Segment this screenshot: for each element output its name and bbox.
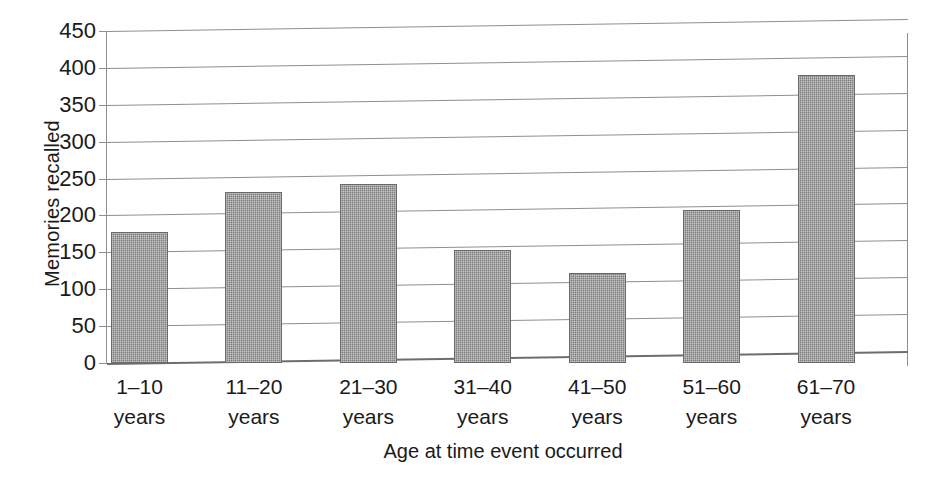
x-tick-label: 51–60years xyxy=(652,372,772,432)
y-tick-mark xyxy=(99,105,107,106)
y-axis-line xyxy=(106,31,107,364)
bar xyxy=(683,210,740,363)
gridline xyxy=(107,130,908,143)
x-tick-label-unit: years xyxy=(80,402,200,432)
bar xyxy=(111,232,168,363)
bar xyxy=(798,75,855,363)
y-tick-label: 250 xyxy=(59,166,96,192)
y-tick-mark xyxy=(99,31,107,32)
bar-chart-figure: Memories recalled 4504003503002502001501… xyxy=(0,0,926,486)
y-tick-label: 300 xyxy=(59,129,96,155)
x-tick-label: 21–30years xyxy=(308,372,428,432)
x-tick-label: 11–20years xyxy=(194,372,314,432)
y-axis-tick: 150 xyxy=(107,252,108,253)
y-tick-mark xyxy=(99,215,107,216)
y-axis-tick: 100 xyxy=(107,289,108,290)
x-tick-label: 41–50years xyxy=(537,372,657,432)
y-axis-tick: 300 xyxy=(107,142,108,143)
x-axis-title: Age at time event occurred xyxy=(0,440,926,463)
y-tick-mark xyxy=(99,68,107,69)
x-tick-label-range: 21–30 xyxy=(308,372,428,402)
x-tick-label-range: 41–50 xyxy=(537,372,657,402)
gridline xyxy=(107,167,908,180)
gridline xyxy=(107,56,908,69)
x-tick-label-range: 51–60 xyxy=(652,372,772,402)
x-tick-label: 1–10years xyxy=(80,372,200,432)
bar xyxy=(225,192,282,363)
y-axis-tick: 450 xyxy=(107,31,108,32)
bar xyxy=(340,184,397,363)
y-tick-mark xyxy=(99,289,107,290)
x-tick-label-unit: years xyxy=(537,402,657,432)
plot-area: 450400350300250200150100500 xyxy=(107,31,908,363)
y-axis-tick: 200 xyxy=(107,215,108,216)
bar xyxy=(569,273,626,363)
y-tick-label: 350 xyxy=(59,92,96,118)
y-axis-tick: 0 xyxy=(107,363,108,364)
y-tick-mark xyxy=(99,326,107,327)
y-tick-label: 400 xyxy=(59,55,96,81)
y-tick-label: 200 xyxy=(59,202,96,228)
y-axis-tick: 350 xyxy=(107,105,108,106)
x-tick-label-range: 31–40 xyxy=(423,372,543,402)
x-tick-label-unit: years xyxy=(766,402,886,432)
x-tick-label-range: 61–70 xyxy=(766,372,886,402)
y-tick-mark xyxy=(99,142,107,143)
x-tick-label-unit: years xyxy=(194,402,314,432)
x-tick-label-unit: years xyxy=(308,402,428,432)
plot-right-border xyxy=(907,33,908,366)
y-tick-label: 450 xyxy=(59,18,96,44)
x-tick-label-range: 11–20 xyxy=(194,372,314,402)
y-axis-tick: 250 xyxy=(107,179,108,180)
x-tick-label: 31–40years xyxy=(423,372,543,432)
gridline xyxy=(107,19,908,32)
x-tick-label-unit: years xyxy=(423,402,543,432)
x-tick-label: 61–70years xyxy=(766,372,886,432)
y-tick-mark xyxy=(99,363,107,364)
bar xyxy=(454,250,511,363)
y-tick-label: 100 xyxy=(59,276,96,302)
gridline xyxy=(107,93,908,106)
y-axis-tick: 50 xyxy=(107,326,108,327)
y-tick-label: 50 xyxy=(72,313,96,339)
y-tick-mark xyxy=(99,179,107,180)
y-tick-mark xyxy=(99,252,107,253)
y-tick-label: 150 xyxy=(59,239,96,265)
y-axis-tick: 400 xyxy=(107,68,108,69)
x-tick-label-unit: years xyxy=(652,402,772,432)
x-tick-label-range: 1–10 xyxy=(80,372,200,402)
